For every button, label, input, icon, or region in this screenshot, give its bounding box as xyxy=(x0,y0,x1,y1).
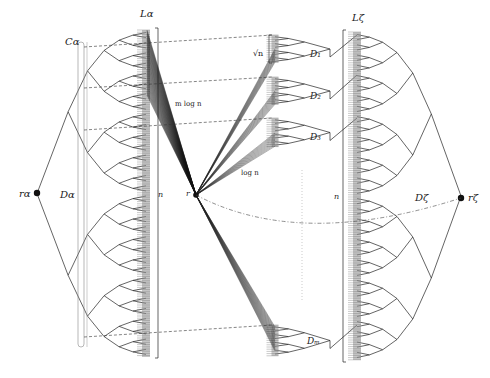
label-sqrt-n: √n xyxy=(253,50,263,58)
label-n-left: n xyxy=(158,191,163,199)
label-D-zeta: Dζ xyxy=(415,193,428,203)
label-n-right: n xyxy=(334,193,339,201)
label-D3: D₃ xyxy=(310,133,321,142)
label-L-zeta: Lζ xyxy=(352,13,364,23)
right-tree-D-zeta xyxy=(357,35,464,358)
label-Dm: Dₘ xyxy=(307,337,320,346)
label-r-zeta: rζ xyxy=(468,193,478,203)
label-r: r xyxy=(186,190,190,198)
left-tree-D-alpha xyxy=(34,33,146,355)
label-C-alpha: Cα xyxy=(65,37,79,47)
label-D2: D₂ xyxy=(310,92,321,101)
label-L-alpha: Lα xyxy=(140,9,153,19)
label-D-alpha: Dα xyxy=(60,190,75,200)
label-m-log-n: m log n xyxy=(175,101,202,108)
small-trees-D1-Dm xyxy=(275,35,357,354)
label-r-alpha: rα xyxy=(19,189,31,199)
label-D1: D₁ xyxy=(310,50,321,59)
label-log-n: log n xyxy=(241,170,259,177)
